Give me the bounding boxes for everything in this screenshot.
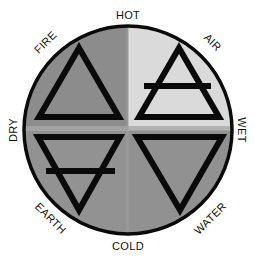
label-dry: DRY xyxy=(7,118,19,142)
label-air: AIR xyxy=(202,31,224,53)
elements-diagram: HOT COLD DRY WET FIRE AIR EARTH WATER xyxy=(0,0,255,261)
quadrant-fire xyxy=(20,22,128,130)
label-wet: WET xyxy=(236,117,248,142)
quadrants xyxy=(20,22,240,242)
label-cold: COLD xyxy=(112,240,144,252)
vertical-divider xyxy=(126,22,129,242)
label-fire: FIRE xyxy=(32,29,59,56)
quadrant-air xyxy=(128,22,238,130)
horizontal-divider xyxy=(20,126,240,131)
label-hot: HOT xyxy=(116,9,140,21)
